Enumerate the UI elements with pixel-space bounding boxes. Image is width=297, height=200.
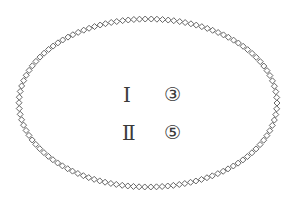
circled-number-5: ⑤ (164, 123, 181, 142)
ellipse-diagram (0, 0, 297, 200)
roman-numeral-2: Ⅱ (122, 123, 136, 143)
roman-numeral-1: Ⅰ (123, 85, 131, 105)
diamond-chain-border (16, 16, 280, 190)
circled-number-3: ③ (164, 85, 181, 104)
